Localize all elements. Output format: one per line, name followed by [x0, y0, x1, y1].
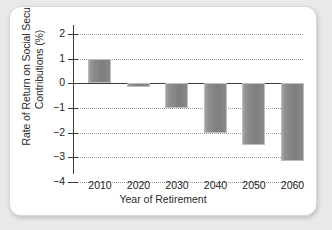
y-tick-label: 0: [35, 76, 65, 88]
y-tick-mark: [68, 34, 78, 35]
gridline: [73, 133, 303, 134]
y-tick-label: 2: [35, 27, 65, 39]
y-tick-label: −4: [35, 175, 65, 187]
y-tick-label: −2: [35, 126, 65, 138]
bar-2050: [242, 83, 265, 145]
plot-area: 210−1−2−3−4 201020202030204020502060: [68, 25, 303, 183]
x-tick-label: 2060: [267, 179, 318, 191]
y-tick-label: 1: [35, 52, 65, 64]
bar-2030: [165, 83, 188, 108]
y-tick-mark: [68, 157, 78, 158]
y-tick-label: −1: [35, 101, 65, 113]
bar-2040: [204, 83, 227, 132]
y-tick-label: −3: [35, 150, 65, 162]
bar-2020: [127, 83, 150, 87]
bar-2010: [88, 59, 111, 84]
chart-card: Rate of Return on Social Security Contri…: [9, 6, 317, 216]
gridline: [73, 157, 303, 158]
bar-2060: [281, 83, 304, 161]
gridline: [73, 108, 303, 109]
y-tick-mark: [68, 108, 78, 109]
y-axis-line: [73, 25, 74, 174]
y-tick-mark: [68, 59, 78, 60]
gridline: [73, 34, 303, 35]
x-axis-title: Year of Retirement: [10, 193, 316, 205]
y-tick-mark: [68, 133, 78, 134]
y-tick-mark: [68, 83, 78, 84]
